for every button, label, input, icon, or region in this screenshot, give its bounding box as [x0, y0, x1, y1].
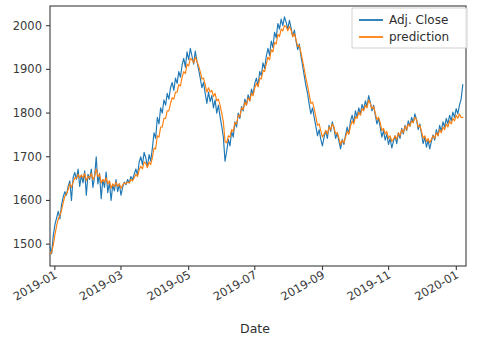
y-tick-label: 1600 — [13, 193, 42, 207]
x-tick-label: 2019-03 — [77, 267, 126, 303]
y-axis-ticks: 150016001700180019002000 — [13, 19, 50, 251]
x-tick-label: 2020-01 — [412, 267, 461, 303]
x-axis-ticks: 2019-012019-032019-052019-072019-092019-… — [11, 266, 461, 304]
y-tick-label: 1700 — [13, 150, 42, 164]
x-axis-title: Date — [240, 321, 270, 336]
line-chart: 150016001700180019002000 2019-012019-032… — [0, 0, 484, 350]
x-tick-label: 2019-09 — [278, 267, 327, 303]
y-tick-label: 1500 — [13, 237, 42, 251]
data-series-group — [50, 17, 463, 254]
series-line-prediction — [50, 26, 463, 254]
legend-label-2: prediction — [389, 30, 449, 44]
y-tick-label: 1900 — [13, 62, 42, 76]
series-line-adj-close — [50, 17, 463, 254]
y-tick-label: 1800 — [13, 106, 42, 120]
x-tick-label: 2019-11 — [344, 267, 393, 303]
x-tick-label: 2019-01 — [11, 267, 60, 303]
x-tick-label: 2019-07 — [211, 267, 260, 303]
chart-figure: 150016001700180019002000 2019-012019-032… — [0, 0, 484, 350]
legend-label-1: Adj. Close — [389, 13, 448, 27]
x-tick-label: 2019-05 — [145, 267, 194, 303]
y-tick-label: 2000 — [13, 19, 42, 33]
chart-legend: Adj. Closeprediction — [352, 8, 467, 48]
